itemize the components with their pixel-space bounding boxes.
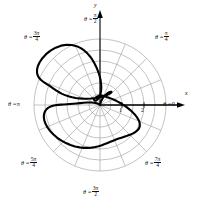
- angle-label-theta-pi-2: θ =π2: [84, 13, 98, 25]
- angle-label-theta-0: θ =0: [163, 101, 175, 107]
- spoke-225: [53, 105, 100, 152]
- fraction-denominator: 4: [30, 162, 38, 169]
- radial-tick-label-2: 2: [141, 107, 144, 113]
- x-axis-label: x: [185, 90, 188, 96]
- angle-label-fraction: π4: [164, 31, 169, 43]
- angle-label-theta-3pi-2: θ =3π2: [83, 186, 99, 198]
- angle-label-fraction: 7π4: [154, 157, 162, 169]
- angle-label-prefix: θ =: [8, 100, 17, 107]
- angle-label-fraction: π2: [93, 13, 98, 25]
- polar-plot-figure: y x 1 2 θ =0 θ =π4 θ =π2 θ =3π4 θ =π θ =…: [0, 0, 201, 204]
- angle-label-fraction: 3π2: [92, 186, 100, 198]
- angle-label-prefix: θ =: [155, 33, 164, 40]
- angle-label-prefix: θ =: [84, 15, 93, 22]
- radial-tick-label-1: 1: [119, 107, 122, 113]
- angle-label-theta-3pi-4: θ =3π4: [24, 31, 40, 43]
- x-axis-arrowhead: [177, 102, 185, 108]
- fraction-denominator: 4: [154, 162, 162, 169]
- angle-label-theta-pi: θ =π: [8, 101, 20, 107]
- angle-label-prefix: θ =: [145, 159, 154, 166]
- angle-label-value: π: [17, 100, 20, 107]
- angle-label-prefix: θ =: [24, 33, 33, 40]
- angle-label-prefix: θ =: [21, 159, 30, 166]
- angle-label-theta-pi-4: θ =π4: [155, 31, 169, 43]
- y-axis-label: y: [94, 2, 97, 8]
- angle-label-theta-7pi-4: θ =7π4: [145, 157, 161, 169]
- angle-label-fraction: 3π4: [33, 31, 41, 43]
- fraction-denominator: 4: [33, 36, 41, 43]
- angle-label-prefix: θ =: [83, 188, 92, 195]
- angle-label-fraction: 5π4: [30, 157, 38, 169]
- angle-label-theta-5pi-4: θ =5π4: [21, 157, 37, 169]
- y-axis-arrowhead: [97, 10, 103, 18]
- fraction-denominator: 2: [92, 191, 100, 198]
- fraction-denominator: 4: [164, 36, 169, 43]
- angle-label-prefix: θ =: [163, 100, 172, 107]
- fraction-denominator: 2: [93, 18, 98, 25]
- angle-label-value: 0: [172, 100, 175, 107]
